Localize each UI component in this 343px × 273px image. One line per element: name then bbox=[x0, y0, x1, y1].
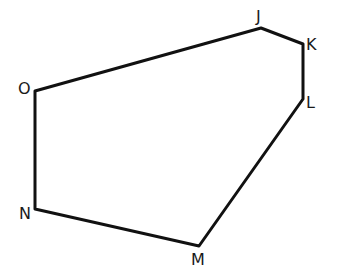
vertex-label-l: L bbox=[306, 93, 315, 112]
polygon-jklmno bbox=[35, 28, 303, 246]
polygon-diagram: J K L M N O bbox=[0, 0, 343, 273]
vertex-label-n: N bbox=[19, 204, 31, 223]
vertex-label-j: J bbox=[255, 7, 261, 26]
vertex-label-k: K bbox=[306, 35, 317, 54]
vertex-label-o: O bbox=[18, 79, 31, 98]
vertex-label-m: M bbox=[191, 250, 205, 269]
